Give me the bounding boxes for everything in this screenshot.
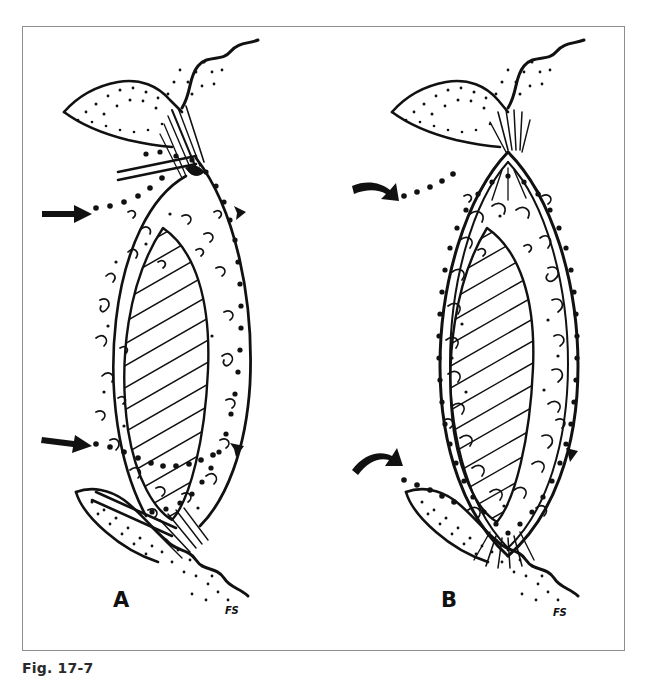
artist-signature-panel-a: FS [225,605,238,616]
figure-frame [22,26,625,651]
panel-b-label: B [441,588,458,612]
artist-signature-panel-b: FS [553,607,566,618]
panel-a-label: A [113,588,130,612]
figure-root: A B FS FS Fig. 17-7 [0,0,662,680]
figure-caption: Fig. 17-7 [22,660,93,676]
